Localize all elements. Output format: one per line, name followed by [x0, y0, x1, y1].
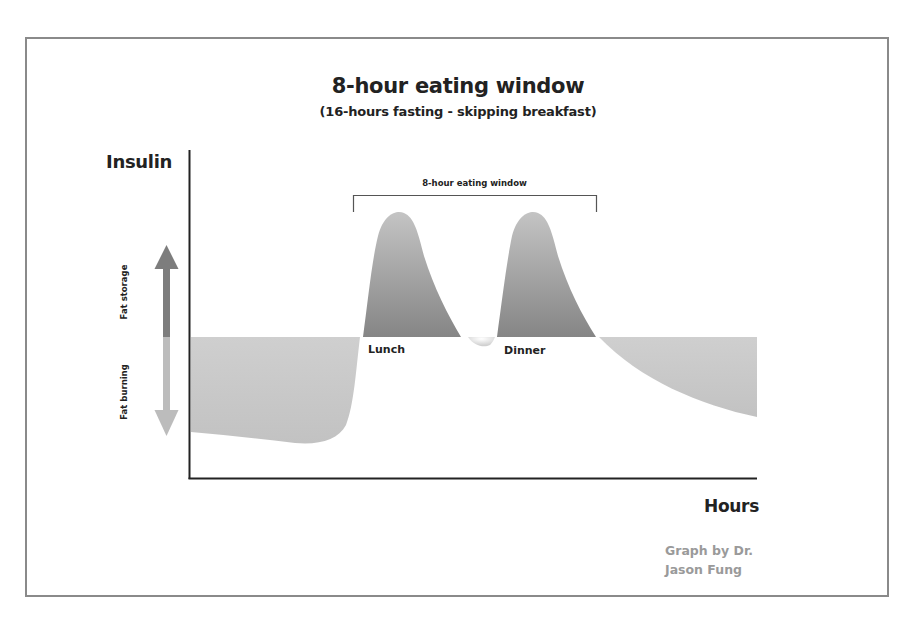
morning-fasting-area	[191, 337, 360, 443]
dinner-spike-area	[497, 212, 596, 337]
lunch-spike-area	[363, 212, 461, 337]
fat-storage-burning-arrow-icon	[155, 245, 179, 436]
between-meals-dip	[468, 337, 495, 346]
night-fasting-area	[599, 337, 757, 417]
eating-window-bracket	[354, 196, 597, 213]
insulin-chart	[0, 0, 916, 633]
